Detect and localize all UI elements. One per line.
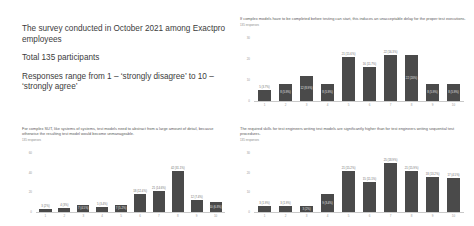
bar[interactable]	[426, 177, 439, 212]
chart-title: If complex models have to be completed b…	[240, 16, 466, 21]
bar[interactable]	[258, 206, 271, 212]
bar-column[interactable]: 7 (4.5%)	[74, 146, 93, 212]
x-axis-tick: 10	[443, 214, 464, 218]
x-axis-line	[36, 212, 225, 213]
bar[interactable]	[153, 191, 165, 212]
x-axis-tick: 9	[422, 214, 443, 218]
bar-column[interactable]: 8 (5.9%)	[422, 31, 443, 101]
bar-value-label: 25 (18.9%)	[384, 158, 398, 162]
x-axis-tick: 8	[401, 214, 422, 218]
x-axis-tick: 8	[168, 214, 187, 218]
chart-title: For complex SUT, like systems of systems…	[22, 126, 227, 136]
bar[interactable]	[172, 171, 184, 212]
bar-value-label: 21 (15.2%)	[342, 166, 356, 170]
bar-column[interactable]: 3 (1.9%)	[275, 146, 296, 212]
bar-value-label: 10 (6.8%)	[210, 205, 222, 209]
bar[interactable]	[384, 55, 397, 101]
x-axis-tick: 7	[149, 214, 168, 218]
bar[interactable]	[58, 208, 70, 212]
bar-column[interactable]: 22 (16.3%)	[380, 31, 401, 101]
chart-panel-bottom-left: For complex SUT, like systems of systems…	[22, 126, 227, 212]
y-axis-tick: 0	[240, 210, 250, 214]
bar-value-label: 8 (5.9%)	[427, 90, 438, 94]
bar-column[interactable]: 5 (3.7%)	[254, 31, 275, 101]
bar[interactable]	[405, 171, 418, 212]
bar-column[interactable]: 12 (7.4%)	[187, 146, 206, 212]
x-axis-tick: 8	[401, 103, 422, 107]
chart-panel-top-right: If complex models have to be completed b…	[240, 16, 466, 101]
bar-value-label: 17 (4.5%)	[447, 173, 459, 177]
bar-value-label: 22 (16.3%)	[384, 50, 398, 54]
y-axis-tick: 10	[240, 190, 250, 194]
bar-column[interactable]: 3 (1.9%)	[254, 146, 275, 212]
x-axis-tick: 1	[254, 103, 275, 107]
bar-column[interactable]: 5 (3.4%)	[93, 146, 112, 212]
chart-plot-area: 01020305 (3.7%)8 (5.9%)12 (8.9%)8 (5.9%)…	[240, 31, 466, 101]
bar-column[interactable]: 42 (31.1%)	[168, 146, 187, 212]
x-axis-tick: 4	[317, 103, 338, 107]
x-axis-tick: 1	[254, 214, 275, 218]
bar[interactable]	[363, 182, 376, 212]
bar-value-label: 12 (7.4%)	[191, 195, 203, 199]
bar-column[interactable]: 9 (3.4%)	[317, 146, 338, 212]
chart-subtitle: 135 responses	[240, 138, 466, 142]
bar[interactable]	[191, 200, 203, 212]
bar-value-label: 42 (31.1%)	[171, 166, 185, 170]
bar-column[interactable]: 10 (6.8%)	[206, 146, 225, 212]
bar[interactable]	[258, 90, 271, 101]
bar-column[interactable]: 12 (8.9%)	[296, 31, 317, 101]
bar-series: 3 (2%)4 (3%)7 (4.5%)5 (3.4%)7 (5.2%)18 (…	[36, 146, 225, 212]
bar[interactable]	[384, 163, 397, 212]
bar-column[interactable]: 15 (11.1%)	[359, 146, 380, 212]
x-axis-tick: 9	[187, 214, 206, 218]
bar-column[interactable]: 17 (4.5%)	[443, 146, 464, 212]
bar-value-label: 8 (5.9%)	[322, 90, 333, 94]
bar-column[interactable]: 21 (15.6%)	[338, 31, 359, 101]
bar-value-label: 21 (14.6%)	[152, 186, 166, 190]
bar-column[interactable]: 8 (5.9%)	[317, 31, 338, 101]
bar-column[interactable]: 25 (18.9%)	[380, 146, 401, 212]
bar-value-label: 15 (11.1%)	[363, 177, 376, 181]
bar-column[interactable]: 21 (15.2%)	[338, 146, 359, 212]
bar-column[interactable]: 16 (11.7%)	[359, 31, 380, 101]
bar-value-label: 5 (3.4%)	[97, 202, 108, 206]
bar-value-label: 18 (12.4%)	[133, 189, 147, 193]
bar-column[interactable]: 7 (5.2%)	[112, 146, 131, 212]
x-axis-tick: 2	[275, 103, 296, 107]
x-axis-tick: 10	[206, 214, 225, 218]
x-axis-tick: 3	[74, 214, 93, 218]
bar[interactable]	[447, 178, 460, 211]
chart-subtitle: 135 responses	[240, 23, 466, 27]
bar-column[interactable]: 3 (2%)	[36, 146, 55, 212]
x-axis-tick: 5	[112, 214, 131, 218]
bar-column[interactable]: 8 (5.9%)	[275, 31, 296, 101]
bar[interactable]	[134, 194, 146, 212]
chart-plot-area: 01020303 (1.9%)3 (1.9%)3 (2%)9 (3.4%)21 …	[240, 146, 466, 212]
bar[interactable]	[39, 209, 51, 212]
bar-value-label: 22 (20%)	[406, 76, 417, 80]
intro-line-3: Responses range from 1 – ‘strongly disag…	[22, 72, 227, 93]
bar-column[interactable]: 21 (14.6%)	[149, 146, 168, 212]
y-axis-tick: 20	[240, 57, 250, 61]
bar-column[interactable]: 18 (13.2%)	[422, 146, 443, 212]
bar-column[interactable]: 18 (12.4%)	[131, 146, 150, 212]
x-axis-tick: 6	[359, 103, 380, 107]
bar-value-label: 5 (3.7%)	[259, 85, 270, 89]
bar[interactable]	[342, 171, 355, 212]
bar[interactable]	[342, 57, 355, 101]
bar[interactable]	[363, 67, 376, 101]
bar-column[interactable]: 3 (2%)	[296, 146, 317, 212]
y-axis-tick: 0	[22, 210, 32, 214]
bar-column[interactable]: 22 (20%)	[401, 31, 422, 101]
bar-column[interactable]: 4 (3%)	[55, 146, 74, 212]
bar-column[interactable]: 21 (15.9%)	[401, 146, 422, 212]
bar-value-label: 9 (3.4%)	[322, 201, 333, 205]
chart-plot-area: 02040603 (2%)4 (3%)7 (4.5%)5 (3.4%)7 (5.…	[22, 146, 227, 212]
bar-value-label: 21 (15.9%)	[405, 166, 419, 170]
bar-column[interactable]: 8 (5.9%)	[443, 31, 464, 101]
x-axis-ticks: 12345678910	[254, 103, 464, 107]
bar[interactable]	[96, 207, 108, 212]
bar-value-label: 8 (5.9%)	[280, 90, 291, 94]
bar[interactable]	[279, 206, 292, 212]
x-axis-tick: 6	[131, 214, 150, 218]
